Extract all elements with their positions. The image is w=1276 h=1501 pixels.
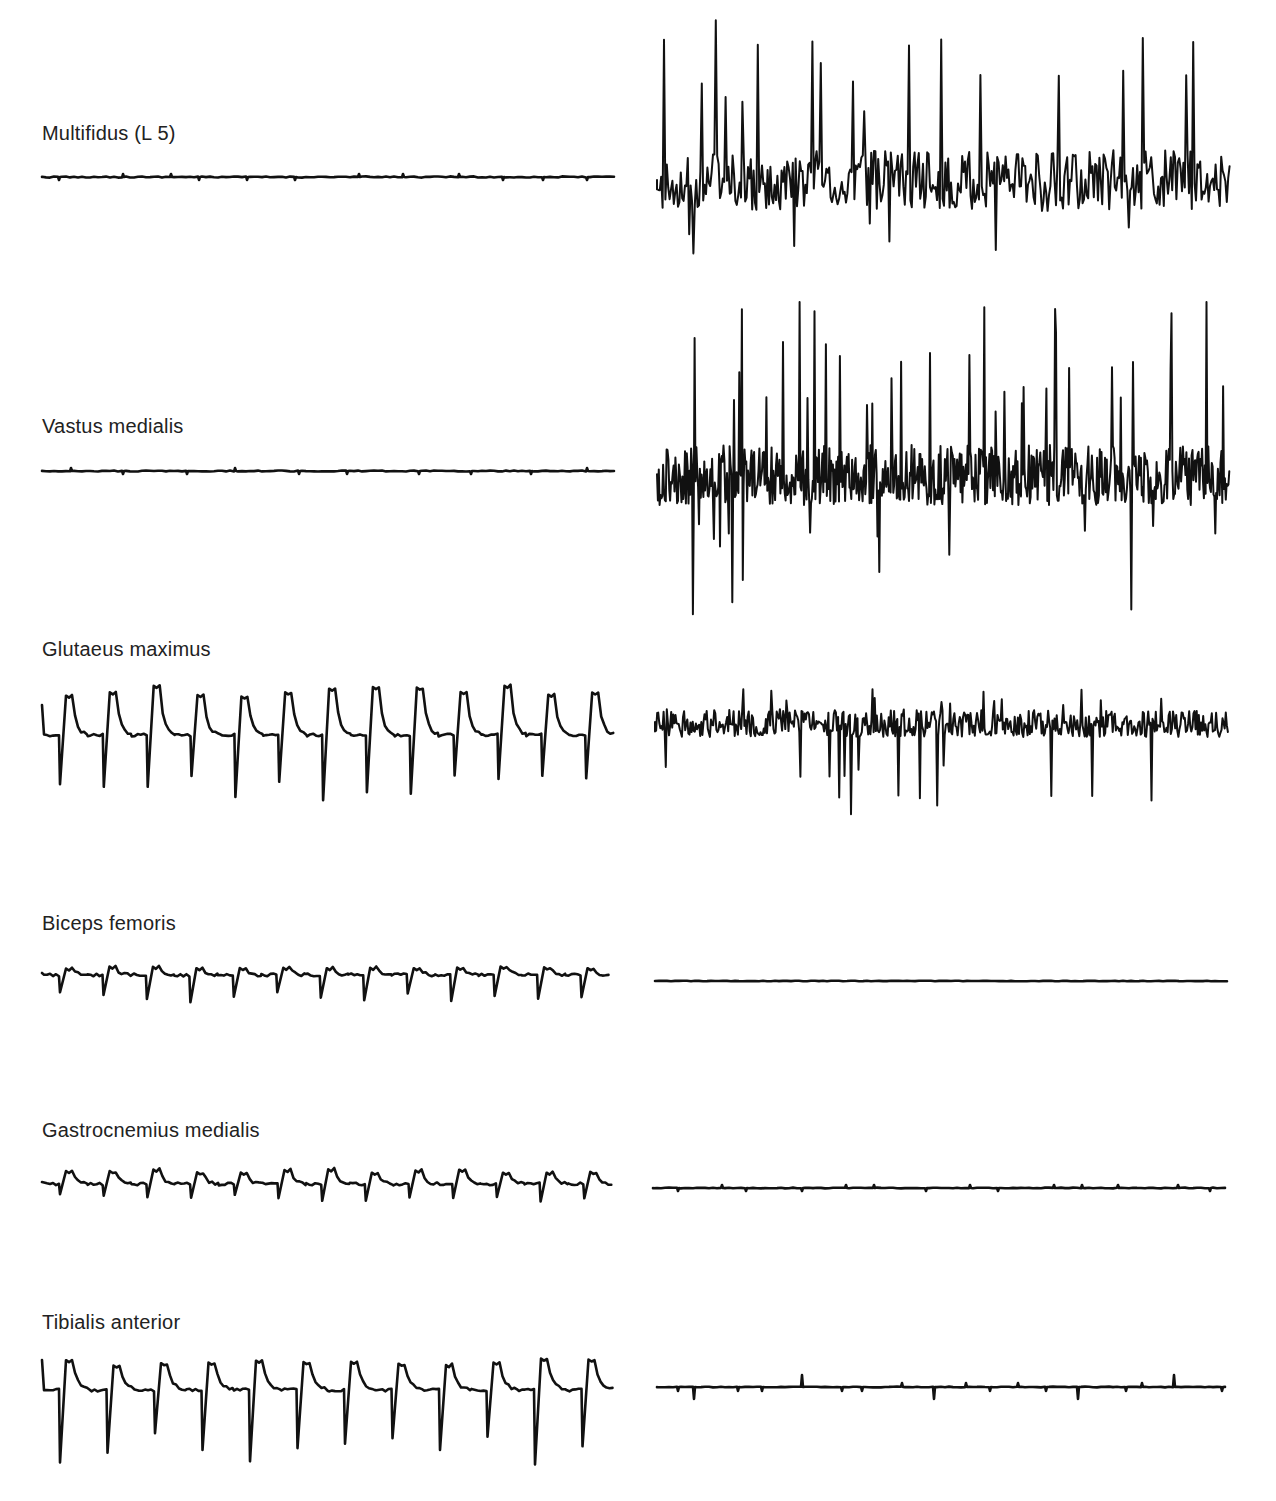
trace-2-right — [655, 689, 1228, 814]
trace-5-right — [657, 1375, 1225, 1399]
trace-1-right — [657, 302, 1229, 614]
trace-3-left — [42, 966, 609, 1003]
trace-4-left — [42, 1168, 611, 1202]
trace-0-right — [657, 20, 1230, 253]
trace-2-left — [42, 685, 613, 801]
trace-0-left — [42, 174, 614, 180]
trace-4-right — [653, 1185, 1225, 1191]
trace-1-left — [42, 468, 614, 474]
trace-3-right — [655, 981, 1227, 982]
emg-traces — [0, 0, 1276, 1501]
trace-5-left — [42, 1359, 613, 1465]
